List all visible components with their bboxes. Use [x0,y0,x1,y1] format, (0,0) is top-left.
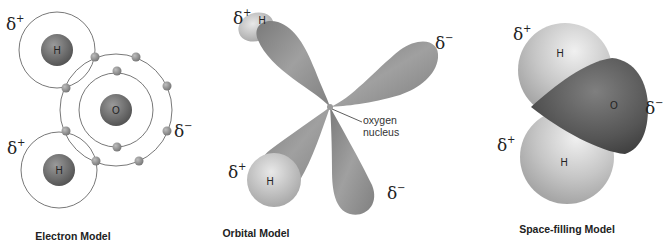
hydrogen-top-label: H [53,45,60,56]
oxygen-label: O [112,105,120,116]
hydrogen-top-label: H [258,15,265,26]
water-molecule-models-diagram: H H O δ + δ + δ − Electron Model oxygen … [0,0,664,242]
charge-lone-pair-upper-sign: − [445,32,453,43]
charge-oxygen-sign: − [655,97,663,108]
hydrogen-bottom-label: H [55,165,62,176]
electron-model: H H O δ + δ + δ − Electron Model [6,12,192,242]
orbital-model: oxygen nucleus H H δ + δ + δ − δ − Orbit… [222,7,453,239]
charge-lone-pair-upper: δ [435,33,445,53]
charge-h-top: δ [6,14,16,34]
charge-h-bottom-sign: + [17,137,25,148]
oxygen-label: O [610,100,618,111]
charge-oxygen: δ [174,121,184,141]
charge-h-bottom-sign: + [238,161,246,172]
charge-h-bottom: δ [228,162,238,182]
charge-oxygen-sign: − [184,120,192,131]
lone-pair-orbital-upper [330,42,438,107]
caption-orbital-model: Orbital Model [222,227,289,239]
hydrogen-top-label: H [556,48,563,59]
charge-h-top: δ [233,8,243,28]
hydrogen-bottom-label: H [560,157,567,168]
charge-h-bottom-sign: + [507,134,515,145]
annotation-nucleus: nucleus [363,126,399,138]
hydrogen-bottom-cap [247,153,301,207]
annotation-oxygen: oxygen [363,114,397,126]
charge-h-bottom: δ [7,138,17,158]
caption-space-filling-model: Space-filling Model [519,223,615,235]
charge-lone-pair-lower-sign: − [397,182,405,193]
charge-h-top-sign: + [16,13,24,24]
charge-h-bottom: δ [497,135,507,155]
charge-h-top-sign: + [523,23,531,34]
charge-h-top-sign: + [243,7,251,18]
charge-oxygen: δ [645,98,655,118]
charge-lone-pair-lower: δ [387,183,397,203]
bonding-orbital-top [256,21,330,107]
charge-h-top: δ [513,24,523,44]
hydrogen-bottom-label: H [266,176,273,187]
caption-electron-model: Electron Model [35,230,110,242]
space-filling-model: H O H δ + δ + δ − Space-filling Model [497,23,663,235]
